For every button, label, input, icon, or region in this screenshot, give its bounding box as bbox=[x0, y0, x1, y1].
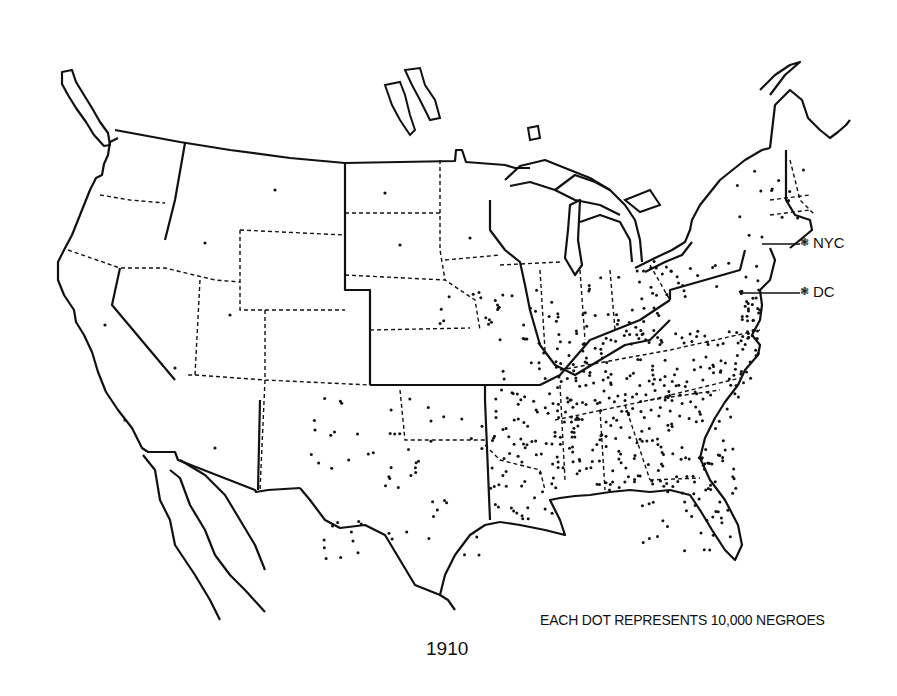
asterisk-icon: ❃ bbox=[800, 285, 809, 298]
city-label-dc: ❃ DC bbox=[800, 283, 835, 300]
map-title-year: 1910 bbox=[426, 638, 468, 660]
state-borders bbox=[68, 160, 815, 490]
lake-outline bbox=[385, 68, 660, 212]
city-leaders bbox=[740, 244, 800, 293]
asterisk-icon: ❃ bbox=[800, 236, 809, 249]
map-legend: EACH DOT REPRESENTS 10,000 NEGROES bbox=[540, 612, 825, 628]
population-dots bbox=[103, 169, 805, 560]
city-label-nyc: ❃ NYC bbox=[800, 234, 845, 251]
dot-density-map bbox=[0, 0, 897, 696]
